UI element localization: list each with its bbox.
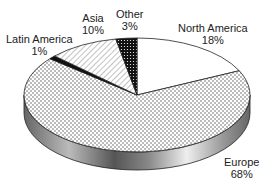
label-pct: 68% <box>224 168 259 180</box>
label-pct: 1% <box>6 45 73 57</box>
label-pct: 18% <box>178 34 248 46</box>
label-other: Other 3% <box>116 8 144 32</box>
label-europe: Europe 68% <box>224 156 259 180</box>
label-name: Asia <box>82 12 104 24</box>
label-name: North America <box>178 22 248 34</box>
label-north-america: North America 18% <box>178 22 248 46</box>
label-pct: 3% <box>116 20 144 32</box>
label-pct: 10% <box>82 24 104 36</box>
label-name: Latin America <box>6 33 73 45</box>
label-name: Other <box>116 8 144 20</box>
label-latin-america: Latin America 1% <box>6 33 73 57</box>
label-name: Europe <box>224 156 259 168</box>
label-asia: Asia 10% <box>82 12 104 36</box>
